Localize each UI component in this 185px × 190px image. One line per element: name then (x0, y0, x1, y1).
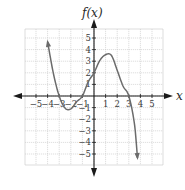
x-axis-right-arrow-icon (164, 93, 173, 99)
y-tick-label: −2 (78, 114, 91, 124)
x-tick-label: 5 (149, 99, 154, 109)
y-tick-label: 4 (86, 45, 91, 55)
y-axis-up-arrow-icon (91, 19, 97, 28)
y-axis-down-arrow-icon (91, 168, 97, 177)
curve-arrow-icon (134, 153, 139, 160)
y-tick-label: −3 (78, 126, 91, 136)
y-tick-label: −1 (78, 103, 91, 113)
x-tick-label: 1 (103, 99, 108, 109)
y-tick-label: −4 (78, 137, 91, 147)
x-tick-label: 4 (138, 99, 143, 109)
x-tick-label: 2 (114, 99, 119, 109)
curve-arrow-icon (46, 40, 51, 47)
y-tick-label: 3 (86, 56, 91, 66)
y-tick-label: 2 (86, 68, 91, 78)
y-axis-label: f(x) (81, 6, 103, 20)
x-axis-label: x (176, 89, 183, 103)
x-axis-left-arrow-icon (13, 93, 22, 99)
y-tick-label: −5 (78, 149, 91, 159)
axes (13, 19, 173, 177)
y-tick-label: 5 (86, 33, 91, 43)
function-graph: −5−4−3−2−112345−5−4−3−2−112345 f(x) x (0, 0, 185, 190)
